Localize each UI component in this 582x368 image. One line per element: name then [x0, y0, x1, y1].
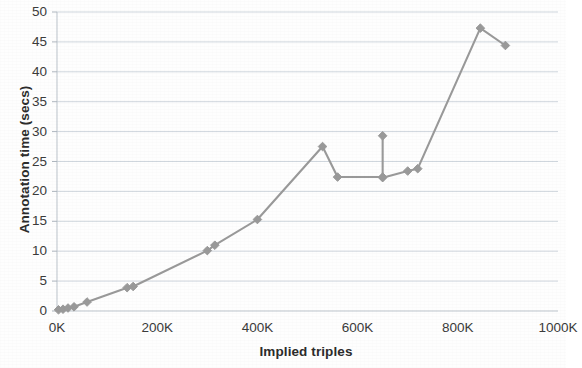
- data-point-marker: [378, 173, 387, 182]
- series-polyline: [59, 28, 506, 310]
- data-point-marker: [378, 131, 387, 140]
- data-point-marker: [413, 164, 422, 173]
- gridlines: [57, 12, 558, 281]
- series-line: [59, 28, 506, 310]
- data-point-marker: [333, 173, 342, 182]
- series-markers: [54, 24, 509, 314]
- data-point-marker: [403, 167, 412, 176]
- data-point-marker: [83, 298, 92, 307]
